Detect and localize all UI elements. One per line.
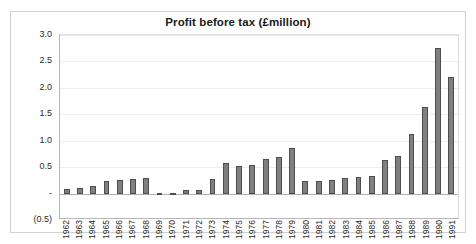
bar[interactable] (90, 186, 96, 194)
x-axis-tick-label: 1978 (274, 220, 284, 239)
x-tick-slot: 1979 (286, 220, 299, 244)
x-tick-slot: 1962 (59, 220, 72, 244)
chart-frame: Profit before tax (£million) 3.02.52.01.… (10, 11, 466, 233)
x-axis-tick-label: 1980 (301, 220, 311, 239)
y-axis-tick-label: 2.0 (39, 82, 52, 92)
bar-slot (126, 35, 139, 218)
bar[interactable] (157, 193, 163, 195)
x-tick-slot: 1969 (152, 220, 165, 244)
bar[interactable] (448, 77, 454, 193)
x-axis-tick-label: 1989 (421, 220, 431, 239)
bar-slot (232, 35, 245, 218)
x-axis-tick-label: 1977 (261, 220, 271, 239)
bar[interactable] (249, 165, 255, 194)
y-axis-tick-label: 1.0 (39, 135, 52, 145)
bar-slot (100, 35, 113, 218)
bar-slot (431, 35, 444, 218)
x-axis-tick-label: 1971 (181, 220, 191, 239)
bar[interactable] (77, 188, 83, 193)
x-axis-tick-label: 1990 (434, 220, 444, 239)
x-tick-slot: 1966 (112, 220, 125, 244)
bar-slot (179, 35, 192, 218)
bar[interactable] (329, 180, 335, 193)
x-tick-slot: 1974 (219, 220, 232, 244)
x-tick-slot: 1980 (299, 220, 312, 244)
x-axis-tick-label: 1984 (354, 220, 364, 239)
bar-slot (312, 35, 325, 218)
x-axis-tick-label: 1967 (127, 220, 137, 239)
bar-slot (325, 35, 338, 218)
y-axis-tick-label: - (49, 188, 52, 198)
bar-slot (392, 35, 405, 218)
bar[interactable] (117, 180, 123, 193)
bar[interactable] (210, 179, 216, 194)
x-tick-slot: 1972 (192, 220, 205, 244)
x-axis-tick-label: 1963 (74, 220, 84, 239)
x-axis-tick-label: 1964 (87, 220, 97, 239)
bar[interactable] (64, 189, 70, 194)
y-axis: 3.02.52.01.51.00.5-(0.5) (11, 34, 57, 219)
chart-title: Profit before tax (£million) (11, 16, 465, 28)
bar-slot (166, 35, 179, 218)
bar-slot (272, 35, 285, 218)
bar[interactable] (395, 156, 401, 194)
bar-slot (113, 35, 126, 218)
bar[interactable] (236, 166, 242, 193)
x-axis-tick-label: 1983 (341, 220, 351, 239)
bar-slot (73, 35, 86, 218)
bar[interactable] (316, 181, 322, 194)
x-axis-tick-label: 1982 (327, 220, 337, 239)
x-axis-tick-label: 1979 (287, 220, 297, 239)
bar[interactable] (369, 176, 375, 194)
x-axis-tick-label: 1970 (167, 220, 177, 239)
x-tick-slot: 1975 (232, 220, 245, 244)
bar[interactable] (342, 178, 348, 193)
bar[interactable] (183, 190, 189, 193)
bar[interactable] (170, 193, 176, 195)
x-tick-slot: 1968 (139, 220, 152, 244)
bar-slot (193, 35, 206, 218)
y-axis-tick-label: 0.5 (39, 161, 52, 171)
bar-slot (87, 35, 100, 218)
x-tick-slot: 1984 (352, 220, 365, 244)
bar-slot (378, 35, 391, 218)
bar[interactable] (409, 134, 415, 193)
bar[interactable] (356, 177, 362, 194)
bar-slot (299, 35, 312, 218)
bar-slot (365, 35, 378, 218)
y-axis-tick-label: 1.5 (39, 108, 52, 118)
x-axis-tick-label: 1988 (407, 220, 417, 239)
y-axis-tick-label: (0.5) (33, 214, 52, 224)
bar[interactable] (302, 181, 308, 194)
bar[interactable] (422, 107, 428, 194)
x-tick-slot: 1989 (419, 220, 432, 244)
bar-slot (140, 35, 153, 218)
x-axis-tick-label: 1976 (247, 220, 257, 239)
bar[interactable] (263, 159, 269, 193)
bar[interactable] (223, 163, 229, 194)
x-axis-tick-label: 1987 (394, 220, 404, 239)
bar[interactable] (382, 160, 388, 194)
x-tick-slot: 1973 (206, 220, 219, 244)
bar[interactable] (276, 157, 282, 194)
bar[interactable] (435, 48, 441, 193)
bar[interactable] (104, 181, 110, 194)
bar[interactable] (130, 179, 136, 193)
x-tick-slot: 1965 (99, 220, 112, 244)
x-tick-slot: 1983 (339, 220, 352, 244)
bar[interactable] (143, 178, 149, 193)
bar-slot (286, 35, 299, 218)
x-tick-slot: 1985 (366, 220, 379, 244)
x-tick-slot: 1967 (126, 220, 139, 244)
x-tick-slot: 1978 (272, 220, 285, 244)
bar-slot (219, 35, 232, 218)
plot-area (59, 34, 459, 219)
x-tick-slot: 1990 (432, 220, 445, 244)
x-tick-slot: 1991 (446, 220, 459, 244)
bar[interactable] (196, 190, 202, 194)
x-axis-tick-label: 1966 (114, 220, 124, 239)
bar[interactable] (289, 148, 295, 194)
y-axis-tick-label: 2.5 (39, 55, 52, 65)
x-tick-slot: 1986 (379, 220, 392, 244)
x-axis-tick-label: 1974 (221, 220, 231, 239)
